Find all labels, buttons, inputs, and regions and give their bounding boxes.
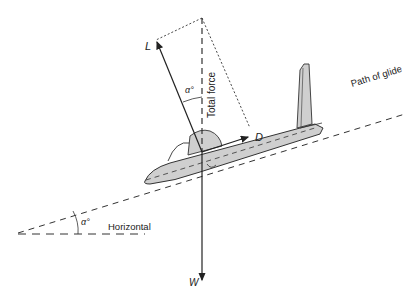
lift-arrow	[157, 42, 202, 152]
horizontal-label: Horizontal	[108, 221, 151, 232]
resultant-box-top	[156, 18, 202, 40]
total-force-label: Total force	[206, 71, 217, 118]
angle-label-top: α°	[185, 85, 194, 95]
weight-label: W	[189, 277, 200, 288]
diagram-canvas: L D W α° α° Total force Path of glide Ho…	[0, 0, 411, 298]
glider-force-diagram: L D W α° α° Total force Path of glide Ho…	[0, 0, 411, 298]
angle-arc-bottom	[73, 211, 78, 234]
lift-label: L	[145, 40, 151, 52]
drag-label: D	[255, 131, 263, 143]
tail-fin	[297, 64, 312, 128]
angle-label-bottom: α°	[81, 217, 90, 227]
angle-arc-top	[183, 97, 202, 102]
path-of-glide-label: Path of glide	[349, 63, 403, 89]
